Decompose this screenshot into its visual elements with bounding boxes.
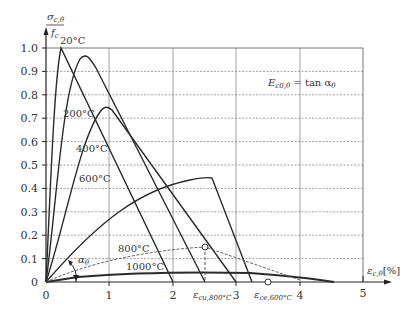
svg-text:σc,θ: σc,θ	[47, 11, 65, 24]
alpha-label: αθ	[78, 254, 90, 267]
label-400c: 400°C	[76, 143, 108, 154]
curve-400c	[46, 107, 236, 282]
modulus-formula: Ec0,θ = tan αθ	[267, 77, 336, 90]
x-tick-3: 3	[233, 289, 240, 302]
y-tick-0.1: 0.1	[21, 253, 39, 266]
y-tick-0.9: 0.9	[21, 65, 39, 78]
y-tick-1.0: 1.0	[21, 42, 39, 55]
eps-cu-marker	[202, 244, 208, 250]
x-axis-arrow-icon	[384, 280, 392, 285]
label-800c: 800°C	[118, 243, 150, 254]
label-200c: 200°C	[63, 108, 95, 119]
y-tick-0: 0	[31, 276, 38, 289]
y-tick-labels: 0 0.1 0.2 0.3 0.4 0.5 0.6 0.7 0.8 0.9 1.…	[21, 42, 39, 289]
x-axis-label: εc,θ[%]	[367, 265, 400, 278]
y-axis-arrow-icon	[44, 27, 49, 35]
y-tick-0.7: 0.7	[21, 112, 39, 125]
y-tick-0.8: 0.8	[21, 89, 39, 102]
eps-ce-600-label: εce,600°C	[254, 289, 293, 302]
eps-cu-800-label: εcu,800°C	[193, 289, 232, 302]
label-1000c: 1000°C	[126, 261, 164, 272]
grid	[46, 71, 363, 258]
label-600c: 600°C	[79, 173, 111, 184]
x-tick-4: 4	[297, 289, 304, 302]
y-tick-0.2: 0.2	[21, 229, 39, 242]
y-tick-0.3: 0.3	[21, 206, 39, 219]
x-tick-5: 5	[360, 287, 367, 300]
y-tick-0.6: 0.6	[21, 136, 39, 149]
x-tick-1: 1	[106, 289, 113, 302]
x-tick-0: 0	[43, 289, 50, 302]
eps-ce-marker	[265, 279, 271, 285]
svg-text:fc: fc	[50, 27, 59, 40]
x-tick-2: 2	[170, 289, 177, 302]
label-20c: 20°C	[60, 35, 86, 46]
stress-strain-chart: 0 0.1 0.2 0.3 0.4 0.5 0.6 0.7 0.8 0.9 1.…	[0, 0, 420, 318]
y-tick-0.5: 0.5	[21, 159, 39, 172]
y-tick-0.4: 0.4	[21, 182, 39, 195]
